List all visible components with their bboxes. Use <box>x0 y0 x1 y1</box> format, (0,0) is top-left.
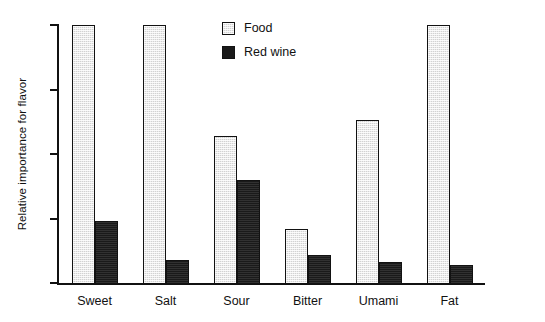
legend-item-label: Food <box>244 21 273 35</box>
bar-food-sweet <box>72 25 95 283</box>
x-axis-label-sweet: Sweet <box>72 291 118 311</box>
bar-group <box>356 25 402 283</box>
y-axis-tick <box>50 153 59 155</box>
y-axis-label: Relative importance for flavor <box>14 25 30 283</box>
bar-red-wine-sour <box>237 180 260 283</box>
y-axis-tick <box>50 24 59 26</box>
legend-swatch-icon <box>222 22 235 35</box>
bar-group <box>427 25 473 283</box>
legend-swatch-icon <box>222 46 235 59</box>
bar-red-wine-bitter <box>308 255 331 283</box>
bar-food-umami <box>356 120 379 283</box>
bar-food-bitter <box>285 229 308 283</box>
x-axis-labels: SweetSaltSourBitterUmamiFat <box>59 291 485 311</box>
bar-red-wine-umami <box>379 262 402 283</box>
x-axis-line <box>57 283 485 285</box>
bar-red-wine-sweet <box>95 221 118 283</box>
bar-food-fat <box>427 25 450 283</box>
bar-food-sour <box>214 136 237 283</box>
x-axis-label-bitter: Bitter <box>285 291 331 311</box>
bar-chart-figure: Relative importance for flavor SweetSalt… <box>0 0 545 322</box>
legend-item-red-wine: Red wine <box>222 41 296 63</box>
bar-red-wine-salt <box>166 260 189 283</box>
y-axis-tick <box>50 282 59 284</box>
y-axis-tick <box>50 218 59 220</box>
chart-legend: FoodRed wine <box>222 17 296 65</box>
legend-item-food: Food <box>222 17 296 39</box>
x-axis-label-salt: Salt <box>143 291 189 311</box>
x-axis-label-fat: Fat <box>427 291 473 311</box>
bar-group <box>143 25 189 283</box>
x-axis-label-sour: Sour <box>214 291 260 311</box>
x-axis-label-umami: Umami <box>356 291 402 311</box>
bar-food-salt <box>143 25 166 283</box>
bar-red-wine-fat <box>450 265 473 283</box>
y-axis-tick <box>50 89 59 91</box>
legend-item-label: Red wine <box>244 45 296 59</box>
bar-group <box>72 25 118 283</box>
